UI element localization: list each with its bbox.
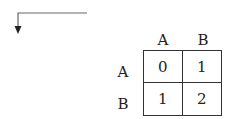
cell-b-b: 2 bbox=[183, 83, 222, 115]
column-header-a: A bbox=[153, 32, 173, 48]
row-header-a: A bbox=[113, 64, 133, 80]
bent-arrow-icon bbox=[0, 0, 100, 40]
column-header-b: B bbox=[193, 32, 213, 48]
cell-a-b: 1 bbox=[183, 51, 222, 83]
cell-b-a: 1 bbox=[144, 83, 183, 115]
cell-a-a: 0 bbox=[144, 51, 183, 83]
matrix-grid: 0 1 1 2 bbox=[143, 50, 222, 116]
row-header-b: B bbox=[113, 96, 133, 112]
